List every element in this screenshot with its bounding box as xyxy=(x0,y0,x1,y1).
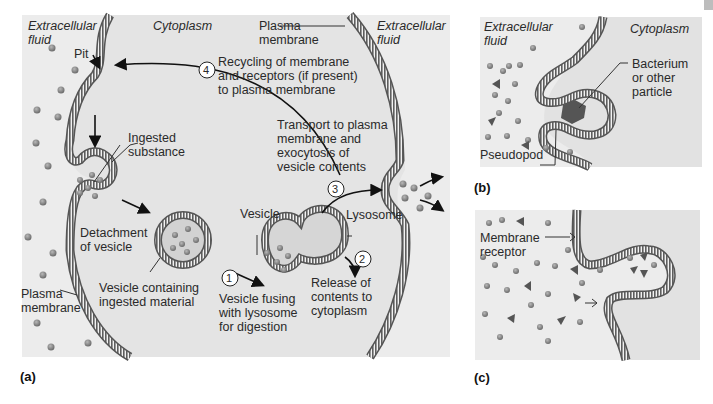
label-pseudopod: Pseudopod xyxy=(480,148,543,162)
label-transport-exocytosis: Transport to plasma membrane and exocyto… xyxy=(277,118,388,174)
step-4-number: 4 xyxy=(203,63,209,77)
step-2-number: 2 xyxy=(359,252,365,266)
label-vesicle-fusing: Vesicle fusing with lysosome for digesti… xyxy=(219,292,298,334)
step-3-number: 3 xyxy=(332,182,338,196)
step-1-number: 1 xyxy=(226,271,232,285)
panel-label-b: (b) xyxy=(474,180,491,195)
label-extracellular-fluid-left: Extracellular fluid xyxy=(28,19,97,47)
label-release-of-contents: Release of contents to cytoplasm xyxy=(311,276,372,318)
label-bacterium: Bacterium or other particle xyxy=(632,57,688,99)
label-cytoplasm-a: Cytoplasm xyxy=(153,19,212,33)
label-membrane-receptor: Membrane receptor xyxy=(480,231,540,259)
label-lysosome: Lysosome xyxy=(346,208,403,222)
label-vesicle: Vesicle xyxy=(240,207,280,221)
panel-label-a: (a) xyxy=(20,369,36,384)
label-recycling: Recycling of membrane and receptors (if … xyxy=(218,55,358,97)
label-vesicle-containing: Vesicle containing ingested material xyxy=(99,281,199,309)
label-cytoplasm-b: Cytoplasm xyxy=(630,22,689,36)
label-extracellular-fluid-b: Extracellular fluid xyxy=(484,20,553,48)
label-plasma-membrane-left: Plasma membrane xyxy=(21,287,81,315)
label-plasma-membrane-top: Plasma membrane xyxy=(259,19,319,47)
panel-label-c: (c) xyxy=(474,370,490,385)
label-pit: Pit xyxy=(74,47,89,61)
label-ingested-substance: Ingested substance xyxy=(128,131,185,159)
label-extracellular-fluid-right: Extracellular fluid xyxy=(377,19,446,47)
label-detachment-of-vesicle: Detachment of vesicle xyxy=(80,226,147,254)
